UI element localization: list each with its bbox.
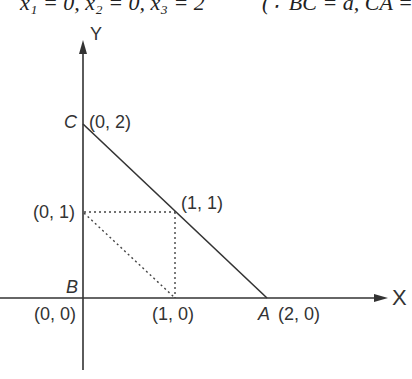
dotted-diagonal xyxy=(84,213,175,298)
x-axis-arrowhead xyxy=(374,294,388,302)
point-a-coord: (2, 0) xyxy=(278,304,320,325)
point-10-coord: (1, 0) xyxy=(152,304,194,325)
y-axis-label: Y xyxy=(90,24,102,45)
y-axis-arrowhead xyxy=(79,40,87,54)
point-c-name: C xyxy=(64,112,77,133)
point-b-coord: (0, 0) xyxy=(34,304,76,325)
point-b-name: B xyxy=(66,277,78,298)
x-axis-label: X xyxy=(392,285,407,311)
point-c-coord: (0, 2) xyxy=(89,112,131,133)
point-11-coord: (1, 1) xyxy=(181,193,223,214)
point-01-coord: (0, 1) xyxy=(33,202,75,223)
segment-ca xyxy=(83,124,267,298)
point-a-name: A xyxy=(258,304,270,325)
